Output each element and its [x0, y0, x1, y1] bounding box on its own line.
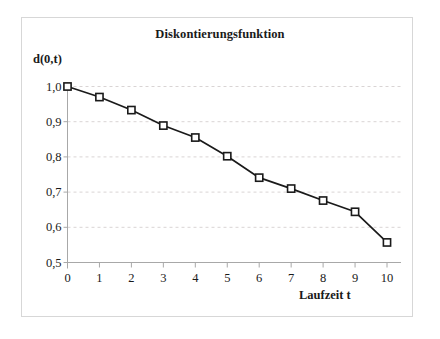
data-point-marker — [320, 197, 327, 204]
y-tick-label: 1,0 — [24, 79, 62, 94]
data-point-marker — [64, 83, 71, 90]
y-tick-label: 0,5 — [24, 255, 62, 270]
y-tick-label: 0,9 — [24, 114, 62, 129]
x-tick-label: 6 — [256, 271, 262, 286]
data-point-marker — [351, 208, 358, 215]
plot-area — [0, 0, 440, 339]
data-point-marker — [256, 174, 263, 181]
chart-figure: Diskontierungsfunktion d(0,t) Laufzeit t… — [0, 0, 440, 339]
data-series-line — [68, 87, 388, 243]
x-tick-label: 5 — [224, 271, 230, 286]
data-point-marker — [96, 93, 103, 100]
data-point-marker — [160, 122, 167, 129]
x-tick-label: 9 — [352, 271, 358, 286]
y-tick-label: 0,6 — [24, 220, 62, 235]
x-tick-label: 8 — [320, 271, 326, 286]
data-point-markers — [64, 83, 391, 246]
x-tick-label: 10 — [381, 271, 394, 286]
data-point-marker — [383, 239, 390, 246]
data-point-marker — [288, 185, 295, 192]
x-tick-label: 0 — [64, 271, 70, 286]
x-tick-label: 3 — [160, 271, 166, 286]
x-tick-label: 1 — [96, 271, 102, 286]
axis-ticks — [64, 87, 388, 268]
data-point-marker — [192, 134, 199, 141]
y-tick-label: 0,7 — [24, 185, 62, 200]
x-tick-label: 2 — [128, 271, 134, 286]
data-point-marker — [224, 153, 231, 160]
x-tick-label: 4 — [192, 271, 198, 286]
y-tick-label: 0,8 — [24, 149, 62, 164]
data-point-marker — [128, 106, 135, 113]
gridlines — [68, 87, 402, 263]
x-tick-label: 7 — [288, 271, 294, 286]
